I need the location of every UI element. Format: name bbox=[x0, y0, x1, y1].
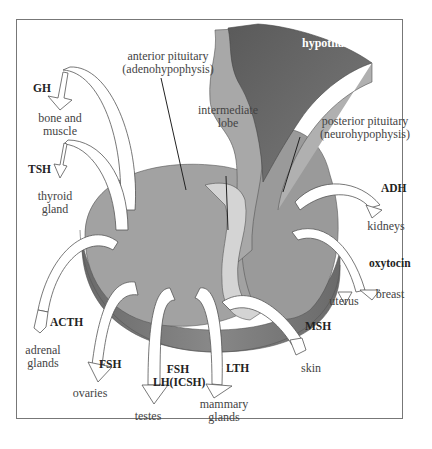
arrow-gh bbox=[63, 67, 136, 210]
target-mammary-glands: mammary glands bbox=[196, 398, 252, 424]
target-uterus: uterus bbox=[326, 295, 362, 308]
label-intermediate-lobe: intermediate lobe bbox=[188, 104, 268, 130]
hormone-adh: ADH bbox=[381, 182, 407, 195]
target-ovaries: ovaries bbox=[70, 387, 110, 400]
hormone-fsh-lh: FSH LH(ICSH) bbox=[153, 363, 203, 389]
hormone-msh: MSH bbox=[305, 320, 331, 333]
target-kidneys: kidneys bbox=[364, 220, 408, 233]
hormone-lth: LTH bbox=[226, 362, 249, 375]
label-hypothalamus: hypothalamus bbox=[302, 36, 375, 51]
target-thyroid-gland: thyroid gland bbox=[30, 190, 80, 216]
hormone-gh: GH bbox=[33, 82, 51, 95]
hormone-acth: ACTH bbox=[50, 316, 83, 329]
target-adrenal-glands: adrenal glands bbox=[22, 344, 64, 370]
hormone-oxytocin: oxytocin bbox=[369, 257, 411, 270]
hormone-tsh: TSH bbox=[28, 163, 51, 176]
label-anterior-pituitary: anterior pituitary (adenohypophysis) bbox=[108, 50, 228, 76]
target-breast: breast bbox=[372, 288, 408, 301]
target-testes: testes bbox=[130, 410, 166, 423]
hormone-fsh-ovaries: FSH bbox=[99, 358, 121, 371]
target-bone-muscle: bone and muscle bbox=[30, 112, 90, 138]
target-skin: skin bbox=[296, 362, 326, 375]
label-posterior-pituitary: posterior pituitary (neurohypophysis) bbox=[310, 115, 420, 141]
